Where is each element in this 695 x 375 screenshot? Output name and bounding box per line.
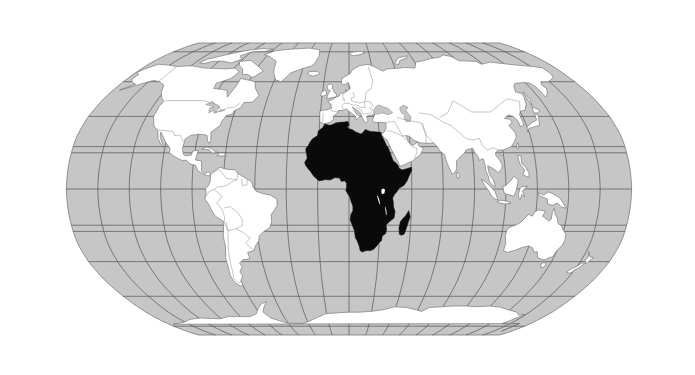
map-svg bbox=[0, 0, 695, 375]
taiwan-landmass bbox=[517, 143, 519, 149]
world-map bbox=[0, 0, 695, 375]
